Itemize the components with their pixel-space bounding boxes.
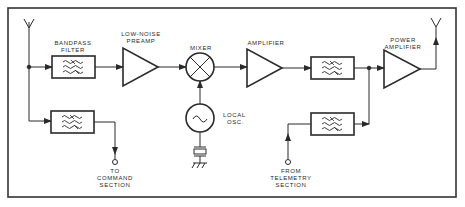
filter-2-block — [311, 57, 354, 79]
low-noise-preamp-triangle — [123, 48, 158, 86]
ground-icon — [192, 163, 207, 168]
to-command-label: TO COMMAND SECTION — [97, 168, 133, 189]
label-line: LOCAL — [223, 112, 246, 119]
label-line: BANDPASS — [54, 40, 91, 47]
mixer-icon — [186, 53, 214, 81]
power-amplifier-triangle — [384, 50, 420, 88]
label-line: TELEMETRY — [270, 175, 311, 182]
local-oscillator-icon — [186, 104, 214, 132]
local-osc-label: LOCAL OSC. — [223, 112, 246, 126]
bandpass-filter-label: BANDPASS FILTER — [54, 40, 91, 54]
crystal-icon — [194, 132, 206, 163]
amplifier-label: AMPLIFIER — [247, 40, 284, 47]
filter-icon — [62, 115, 82, 129]
block-diagram — [0, 0, 465, 207]
low-noise-preamp-label: LOW-NOISE PREAMP — [121, 31, 161, 45]
amplifier-triangle — [247, 49, 282, 87]
label-line: OSC. — [223, 119, 246, 126]
label-line: PREAMP — [121, 38, 161, 45]
label-line: AMPLIFIER — [384, 44, 421, 51]
label-line: SECTION — [270, 182, 311, 189]
filter-icon — [322, 117, 342, 131]
telemetry-filter-block — [311, 113, 354, 135]
label-line: TO — [97, 168, 133, 175]
command-filter-block — [51, 111, 94, 133]
power-amplifier-label: POWER AMPLIFIER — [384, 37, 421, 51]
label-line: LOW-NOISE — [121, 31, 161, 38]
label-line: SECTION — [97, 182, 133, 189]
telemetry-terminal — [286, 160, 291, 165]
rx-antenna-icon — [24, 19, 34, 121]
filter-icon — [322, 61, 342, 75]
label-line: FROM — [270, 168, 311, 175]
label-line: FILTER — [54, 47, 91, 54]
from-telemetry-label: FROM TELEMETRY SECTION — [270, 168, 311, 189]
mixer-label: MIXER — [190, 45, 212, 52]
label-line: POWER — [384, 37, 421, 44]
filter-icon — [63, 60, 83, 74]
bandpass-filter-block — [52, 56, 95, 78]
tx-antenna-icon — [431, 18, 441, 38]
command-terminal — [113, 160, 118, 165]
label-line: COMMAND — [97, 175, 133, 182]
